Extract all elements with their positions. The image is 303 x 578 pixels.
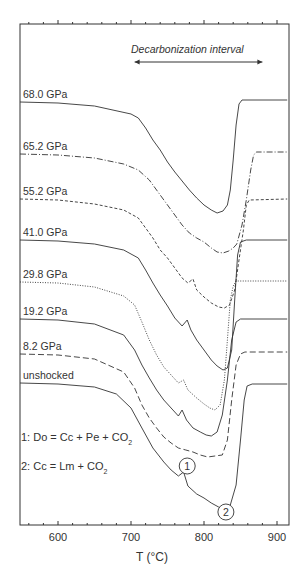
reaction-1: 1: Do = Cc + Pe + CO2 [21, 431, 132, 446]
reaction-2: 2: Cc = Lm + CO2 [21, 460, 108, 475]
x-axis-tick-labels: 600700800900 [49, 531, 286, 543]
x-tick-label: 900 [268, 531, 286, 543]
decarbonization-label: Decarbonization interval [131, 43, 244, 55]
x-tick-label: 700 [122, 531, 140, 543]
series-label: 8.2 GPa [23, 340, 62, 352]
reaction-legend: 1: Do = Cc + Pe + CO22: Cc = Lm + CO2 [21, 431, 132, 475]
decarbonization-arrow [135, 60, 263, 65]
series-label: 65.2 GPa [23, 140, 68, 152]
series-label: unshocked [23, 369, 74, 381]
series-label: 41.0 GPa [23, 226, 68, 238]
x-tick-label: 800 [195, 531, 213, 543]
x-tick-label: 600 [49, 531, 67, 543]
series-label: 29.8 GPa [23, 268, 68, 280]
series-label: 68.0 GPa [23, 88, 68, 100]
peak-markers: 12 [179, 458, 234, 520]
curve-55-2-gpa [20, 199, 287, 308]
arrow-left-icon [135, 60, 140, 65]
marker-label: 1 [184, 460, 190, 472]
chart: 600700800900 68.0 GPa65.2 GPa55.2 GPa41.… [0, 0, 303, 578]
series-labels: 68.0 GPa65.2 GPa55.2 GPa41.0 GPa29.8 GPa… [23, 88, 74, 381]
x-axis-label: T (°C) [136, 550, 168, 564]
arrow-right-icon [257, 60, 262, 65]
series-label: 55.2 GPa [23, 185, 68, 197]
series-label: 19.2 GPa [23, 305, 68, 317]
marker-label: 2 [223, 506, 229, 518]
curve-unshocked [20, 383, 287, 509]
